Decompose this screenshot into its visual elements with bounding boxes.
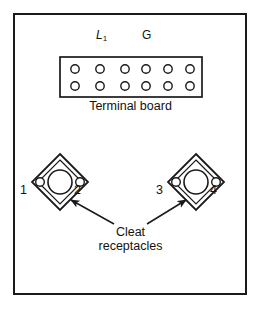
receptacle-terminal-number-2: 2 (74, 183, 81, 197)
receptacle-terminal-number-3: 3 (156, 183, 163, 197)
terminal-hole (142, 65, 150, 73)
left-cleat-receptacle (32, 154, 88, 210)
terminal-hole (96, 82, 104, 90)
terminal-hole (142, 82, 150, 90)
cleat-receptacles-caption: Cleat receptacles (0, 225, 261, 253)
terminal-hole (71, 82, 79, 90)
receptacle-screw-hole-left (172, 178, 181, 187)
terminal-board-caption: Terminal board (0, 99, 261, 113)
right-cleat-receptacle (168, 154, 224, 210)
receptacle-terminal-number-1: 1 (20, 183, 27, 197)
terminal-hole (71, 65, 79, 73)
terminal-label-line1-subscript: 1 (103, 34, 107, 43)
terminal-hole (96, 65, 104, 73)
receptacle-center-hole (184, 170, 208, 194)
terminal-label-line1: L1 (96, 29, 107, 42)
terminal-hole (186, 65, 194, 73)
terminal-hole (121, 82, 129, 90)
figure-container: L1 G Terminal board 1 2 3 4 Cleat recept… (0, 0, 261, 309)
terminal-hole (121, 65, 129, 73)
terminal-label-line1-letter: L (96, 28, 103, 42)
terminal-board-body (60, 57, 202, 97)
receptacle-screw-hole-left (36, 178, 45, 187)
terminal-hole (186, 82, 194, 90)
cleat-receptacles-caption-line-2: receptacles (0, 239, 261, 253)
terminal-label-ground: G (142, 29, 151, 42)
terminal-hole (164, 82, 172, 90)
cleat-receptacles-caption-line-1: Cleat (0, 225, 261, 239)
receptacle-terminal-number-4: 4 (210, 183, 217, 197)
receptacle-center-hole (48, 170, 72, 194)
terminal-hole (164, 65, 172, 73)
left-leader-arrow (71, 200, 114, 224)
diagram-graphics (0, 0, 261, 309)
right-leader-arrow (147, 200, 186, 224)
